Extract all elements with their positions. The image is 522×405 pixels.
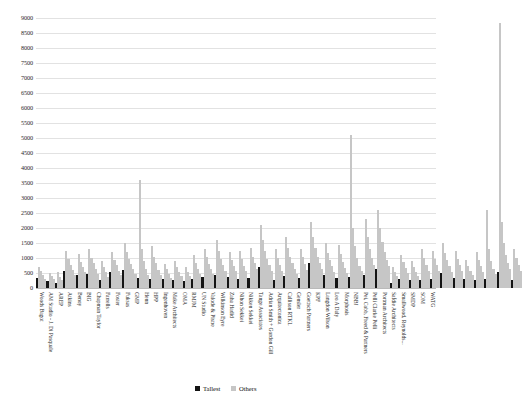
x-axis-label: Atkins xyxy=(66,292,72,307)
x-axis-label-slot: WATG xyxy=(427,290,437,380)
x-axis-label-slot: Goettsch Partners xyxy=(303,290,313,380)
x-axis-label: Morphosis xyxy=(343,292,349,315)
y-axis-tick-label: 3000 xyxy=(3,195,33,201)
x-axis-label-slot: Langdon Wilson xyxy=(322,290,332,380)
bar-group xyxy=(109,18,122,288)
x-axis-label: Arquitectonica xyxy=(276,292,282,325)
bar-group xyxy=(463,18,473,288)
bar-group xyxy=(76,18,86,288)
legend-label-others: Others xyxy=(239,385,257,392)
x-axis-label-slot: SMDP xyxy=(408,290,418,380)
x-axis-label-slot: Valode & Pistre xyxy=(208,290,218,380)
x-axis-label: AM Studio - J. Di Pasquale xyxy=(47,292,53,352)
x-axis-label: Nihon Sekkei xyxy=(238,292,244,322)
plot-area xyxy=(36,18,436,288)
bar-group xyxy=(363,18,376,288)
bar-group xyxy=(247,18,257,288)
y-axis-tick-label: 8000 xyxy=(3,45,33,51)
x-axis-label: NBBJ xyxy=(352,292,358,305)
x-axis-label-slot: AREP xyxy=(55,290,65,380)
y-axis-tick-label: 5500 xyxy=(3,120,33,126)
bar-group xyxy=(137,18,150,288)
bar-group xyxy=(172,18,182,288)
x-axis-label: SMDP xyxy=(409,292,415,307)
bar-group xyxy=(162,18,172,288)
x-axis-label-slot: RMJM xyxy=(189,290,199,380)
bar-group xyxy=(375,18,390,288)
x-axis-label-slot: SOM xyxy=(417,290,427,380)
bar-group xyxy=(419,18,429,288)
bar-group xyxy=(63,18,76,288)
bar-group xyxy=(308,18,323,288)
x-axis-label: Goettsch Partners xyxy=(305,292,311,331)
x-axis-label: HPP xyxy=(152,292,158,302)
x-axis-label: KPF xyxy=(314,292,320,302)
x-axis-label: Langdon Wilson xyxy=(324,292,330,328)
x-axis-label: Pei, Cobb, Freed & Partners xyxy=(362,292,368,354)
x-axis-label-slot: Nihon Sekkei xyxy=(236,290,246,380)
y-axis-tick-label: 2000 xyxy=(3,225,33,231)
gridline xyxy=(36,288,436,289)
bar-group xyxy=(323,18,336,288)
x-axis-label-slot: Adrian Smith + Gordon Gill xyxy=(265,290,275,380)
bar-group xyxy=(36,18,46,288)
bar-group xyxy=(283,18,298,288)
bar-group xyxy=(201,18,214,288)
bar-group xyxy=(99,18,109,288)
x-axis-label: Leo A Daly xyxy=(333,292,339,317)
x-axis-label: GMP xyxy=(133,292,139,304)
y-axis-tick-label: 7000 xyxy=(3,75,33,81)
legend-label-tallest: Tallest xyxy=(203,385,220,392)
x-axis-label: Woods Bagot xyxy=(38,292,44,322)
bar-group xyxy=(55,18,63,288)
x-axis-label-slot: Benoy xyxy=(74,290,84,380)
x-axis-label: AREP xyxy=(57,292,63,306)
legend-entry-tallest: Tallest xyxy=(195,385,220,392)
x-axis-label: Make Architects xyxy=(171,292,177,328)
bar-group xyxy=(409,18,419,288)
y-axis-tick-label: 0 xyxy=(3,285,33,291)
x-axis-label-slot: Henn xyxy=(141,290,151,380)
x-axis-labels: Woods BagotAM Studio - J. Di PasqualeARE… xyxy=(36,290,436,380)
bar-group xyxy=(348,18,363,288)
legend-swatch-tallest-icon xyxy=(195,386,200,391)
bar-group xyxy=(258,18,273,288)
y-axis-tick-label: 5000 xyxy=(3,135,33,141)
x-axis-label-slot: KPF xyxy=(312,290,322,380)
x-axis-label-slot: AM Studio - J. Di Pasquale xyxy=(46,290,56,380)
y-axis-tick-label: 1500 xyxy=(3,240,33,246)
x-axis-label: Gensler xyxy=(295,292,301,309)
bar-group xyxy=(430,18,440,288)
x-axis-label-slot: Ingenhoven xyxy=(160,290,170,380)
bar-group xyxy=(474,18,484,288)
bar-other xyxy=(520,271,522,288)
bar-group xyxy=(298,18,308,288)
x-axis-label: BIG xyxy=(85,292,91,301)
x-axis-label-slot: Make Architects xyxy=(169,290,179,380)
x-axis-label: Adrian Smith + Gordon Gill xyxy=(267,292,273,354)
x-axis-label-slot: Safdie Architects xyxy=(389,290,399,380)
x-axis-label-slot: Farrells xyxy=(103,290,113,380)
x-axis-label-slot: Pei, Cobb, Freed & Partners xyxy=(360,290,370,380)
x-axis-label-slot: Wilkinson Eyre xyxy=(217,290,227,380)
bar-group xyxy=(86,18,99,288)
x-axis-label-slot: Nikken Sekkei xyxy=(246,290,256,380)
bar-group xyxy=(46,18,54,288)
x-axis-label: Nikken Sekkei xyxy=(247,292,253,324)
x-axis-label-slot: Fuksas xyxy=(122,290,132,380)
x-axis-label-slot: NBBJ xyxy=(351,290,361,380)
x-axis-label: Benoy xyxy=(76,292,82,306)
x-axis-label-slot: HPP xyxy=(150,290,160,380)
bar-group xyxy=(511,18,521,288)
x-axis-label: SOM xyxy=(419,292,425,304)
y-axis-tick-label: 1000 xyxy=(3,255,33,261)
bar-group xyxy=(214,18,227,288)
x-axis-label: Chapman Taylor xyxy=(95,292,101,329)
x-axis-label-slot: Morphosis xyxy=(341,290,351,380)
y-axis-tick-label: 3500 xyxy=(3,180,33,186)
y-axis-tick-label: 4500 xyxy=(3,150,33,156)
x-axis-label: Zaha Hadid xyxy=(228,292,234,318)
bar-group xyxy=(440,18,453,288)
x-axis-label: Valode & Pistre xyxy=(209,292,215,327)
